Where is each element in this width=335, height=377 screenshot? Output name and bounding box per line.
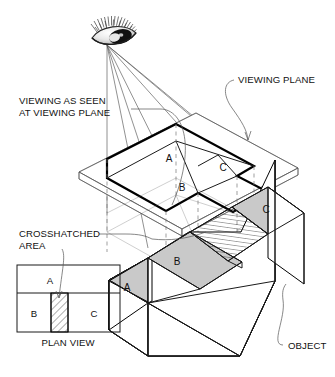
label-viewing-plane: VIEWING PLANE — [238, 74, 315, 85]
diagram-svg: A B C — [0, 0, 335, 377]
plan-cell-hatched — [51, 293, 68, 332]
label-crosshatched-line1: CROSSHATCHED — [19, 228, 100, 239]
object-face-label-c: C — [262, 204, 269, 215]
plan-cell-label-a: A — [47, 275, 54, 286]
diagram-canvas: A B C — [0, 0, 335, 377]
label-crosshatched-line2: AREA — [19, 240, 46, 251]
plan-view-caption: PLAN VIEW — [41, 337, 95, 348]
label-viewing-as-seen-line1: VIEWING AS SEEN — [19, 95, 106, 106]
plan-cell-label-c: C — [91, 308, 98, 319]
plan-cell-label-b: B — [31, 308, 37, 319]
eye-icon — [91, 16, 137, 46]
label-viewing-as-seen-line2: AT VIEWING PLANE — [19, 107, 110, 118]
plan-view: A B C PLAN VIEW — [17, 265, 120, 348]
object-face-label-a: A — [124, 282, 131, 293]
object-face-label-b: B — [174, 256, 181, 267]
projected-face-label-a: A — [166, 153, 173, 164]
label-object: OBJECT — [288, 340, 326, 351]
projected-face-label-c: C — [219, 162, 226, 173]
